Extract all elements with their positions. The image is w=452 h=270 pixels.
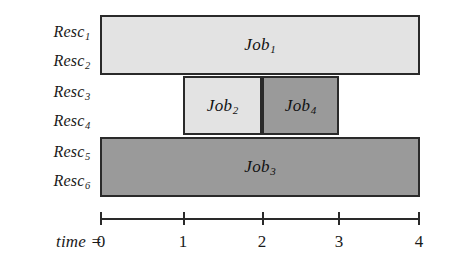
job-label-index: 1: [270, 43, 276, 55]
axis-tick-1: [183, 212, 185, 225]
resource-label-text: Resc: [54, 23, 85, 40]
resource-label-resc6: Resc6: [12, 172, 90, 190]
axis-tick-label-4: 4: [404, 232, 434, 252]
resource-label-text: Resc: [54, 112, 85, 129]
job-bar-label: Job1: [244, 35, 275, 55]
job-label-text: Job: [244, 35, 269, 54]
job-label-text: Job: [207, 96, 232, 115]
resource-label-text: Resc: [54, 143, 85, 160]
axis-tick-4: [418, 212, 420, 225]
job-bar-job1[interactable]: Job1: [100, 15, 420, 75]
axis-tick-3: [338, 212, 340, 225]
job-bar-label: Job2: [207, 96, 238, 116]
resource-label-text: Resc: [54, 52, 85, 69]
resource-label-index: 3: [85, 91, 90, 102]
resource-label-resc5: Resc5: [12, 143, 90, 161]
axis-tick-label-3: 3: [324, 232, 354, 252]
job-bar-label: Job3: [244, 157, 275, 177]
job-bar-label: Job4: [285, 96, 316, 116]
time-axis-line: [100, 218, 420, 220]
resource-label-index: 2: [85, 60, 90, 71]
job-bar-job2[interactable]: Job2: [183, 76, 262, 135]
axis-tick-label-0: 0: [86, 232, 116, 252]
axis-tick-2: [262, 212, 264, 225]
job-label-text: Job: [285, 96, 310, 115]
resource-label-resc4: Resc4: [12, 112, 90, 130]
job-bar-job4[interactable]: Job4: [262, 76, 339, 135]
gantt-schedule-chart: Resc1 Resc2 Resc3 Resc4 Resc5 Resc6 Job1…: [0, 0, 452, 270]
resource-label-index: 5: [85, 151, 90, 162]
resource-label-text: Resc: [54, 172, 85, 189]
resource-label-index: 1: [85, 31, 90, 42]
axis-tick-0: [100, 212, 102, 225]
job-label-index: 2: [233, 104, 239, 116]
resource-label-index: 6: [85, 180, 90, 191]
job-label-index: 3: [270, 165, 276, 177]
resource-label-resc2: Resc2: [12, 52, 90, 70]
resource-label-resc1: Resc1: [12, 23, 90, 41]
resource-label-resc3: Resc3: [12, 83, 90, 101]
job-bar-job3[interactable]: Job3: [100, 137, 420, 197]
resource-label-text: Resc: [54, 83, 85, 100]
job-label-text: Job: [244, 157, 269, 176]
resource-label-index: 4: [85, 120, 90, 131]
axis-tick-label-1: 1: [168, 232, 198, 252]
job-label-index: 4: [311, 104, 317, 116]
axis-tick-label-2: 2: [247, 232, 277, 252]
